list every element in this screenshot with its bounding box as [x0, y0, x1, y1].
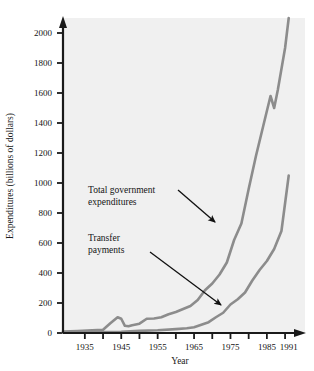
y-tick-label: 1800: [34, 58, 53, 68]
annotation-label: Transfer: [88, 233, 121, 243]
y-tick-label: 800: [39, 208, 53, 218]
x-tick-label: 1975: [221, 342, 240, 352]
y-tick-label: 0: [48, 328, 53, 338]
y-tick-label: 1200: [34, 148, 53, 158]
x-tick-label: 1955: [149, 342, 168, 352]
annotation-label: payments: [88, 245, 125, 255]
y-tick-label: 1600: [34, 88, 53, 98]
y-axis-title: Expenditures (billions of dollars): [5, 113, 16, 239]
annotation-label: expenditures: [88, 197, 137, 207]
x-tick-label: 1935: [76, 342, 95, 352]
x-tick-label: 1991: [280, 342, 298, 352]
y-tick-label: 2000: [34, 28, 53, 38]
plot-area-background: [63, 18, 305, 333]
y-tick-label: 600: [39, 238, 53, 248]
annotation-label: Total government: [88, 185, 155, 195]
y-tick-label: 1000: [34, 178, 53, 188]
y-tick-label: 200: [39, 298, 53, 308]
y-tick-label: 1400: [34, 118, 53, 128]
x-tick-label: 1985: [258, 342, 277, 352]
x-tick-label: 1965: [185, 342, 204, 352]
expenditures-line-chart: 0200400600800100012001400160018002000 19…: [0, 0, 314, 371]
x-tick-label: 1945: [112, 342, 131, 352]
y-tick-label: 400: [39, 268, 53, 278]
x-axis-title: Year: [171, 356, 189, 366]
chart-canvas: 0200400600800100012001400160018002000 19…: [0, 0, 314, 371]
